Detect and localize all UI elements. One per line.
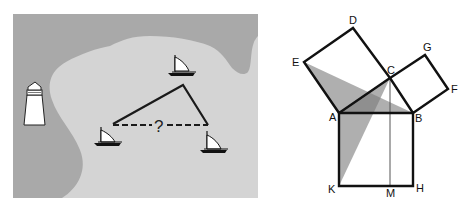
label-G: G <box>423 41 432 53</box>
map-illustration: ? <box>13 14 258 198</box>
label-C: C <box>387 64 395 76</box>
label-B: B <box>415 112 422 124</box>
unknown-distance-label: ? <box>154 117 163 136</box>
figure: ? <box>0 0 470 211</box>
label-E: E <box>292 56 299 68</box>
label-F: F <box>451 83 458 95</box>
label-A: A <box>329 111 337 123</box>
label-H: H <box>416 182 424 194</box>
label-D: D <box>349 14 357 26</box>
pythagorean-diagram: D E C G F A B K M H <box>292 14 458 199</box>
label-M: M <box>386 187 395 199</box>
square-BCGF <box>390 55 448 113</box>
label-K: K <box>328 183 336 195</box>
